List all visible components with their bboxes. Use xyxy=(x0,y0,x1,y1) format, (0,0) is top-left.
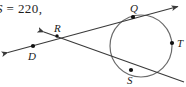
point-label-s: S xyxy=(127,74,133,86)
point-d-dot xyxy=(31,44,35,48)
geometry-diagram-screenshot: S = 220, Q S T R D xyxy=(0,0,186,87)
point-label-r: R xyxy=(53,22,61,34)
point-t-dot xyxy=(170,41,174,45)
circle-shape xyxy=(110,15,172,77)
point-label-q: Q xyxy=(130,2,138,14)
point-s-dot xyxy=(129,68,133,72)
point-label-d: D xyxy=(27,50,36,62)
line-r-s xyxy=(44,32,184,82)
point-q-dot xyxy=(131,15,135,19)
point-label-t: T xyxy=(177,37,184,49)
point-r-dot xyxy=(55,34,58,37)
geometry-figure: Q S T R D xyxy=(0,0,186,87)
